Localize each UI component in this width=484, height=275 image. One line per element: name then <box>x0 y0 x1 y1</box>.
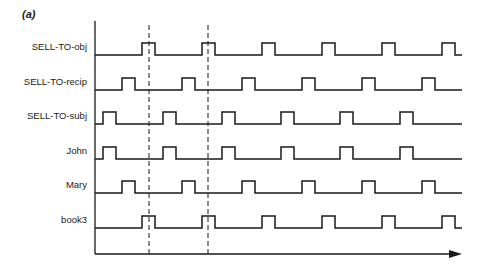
waveform-sell-to-obj <box>95 43 462 55</box>
timing-diagram <box>0 0 484 275</box>
waveform-mary <box>95 181 462 193</box>
time-axis-arrow-icon <box>449 250 462 258</box>
waveform-john <box>95 147 462 159</box>
waveform-sell-to-subj <box>95 112 462 124</box>
signal-waveforms <box>95 43 462 228</box>
waveform-sell-to-recip <box>95 78 462 90</box>
waveform-book3 <box>95 216 462 228</box>
axes <box>95 21 462 258</box>
dashed-time-markers <box>149 25 208 254</box>
